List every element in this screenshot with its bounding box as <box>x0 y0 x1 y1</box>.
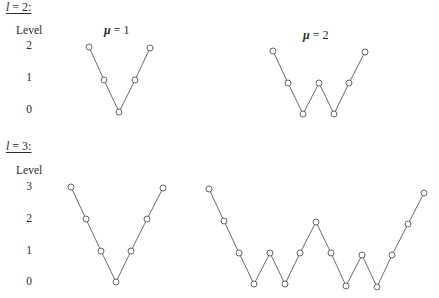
node-circle-icon <box>160 185 166 191</box>
node-circle-icon <box>362 49 368 55</box>
lattice-path <box>86 44 153 115</box>
node-circle-icon <box>83 216 89 222</box>
paths-layer <box>68 44 427 290</box>
path-edge <box>89 47 150 112</box>
node-circle-icon <box>101 77 107 83</box>
node-circle-icon <box>251 281 257 287</box>
node-circle-icon <box>346 80 352 86</box>
node-circle-icon <box>147 45 153 51</box>
node-circle-icon <box>98 248 104 254</box>
lattice-path <box>206 186 427 290</box>
node-circle-icon <box>405 221 411 227</box>
node-circle-icon <box>359 252 365 258</box>
node-circle-icon <box>316 80 322 86</box>
node-circle-icon <box>113 279 119 285</box>
node-circle-icon <box>331 111 337 117</box>
node-circle-icon <box>270 48 276 54</box>
lattice-path <box>270 48 368 117</box>
path-diagram <box>0 0 439 298</box>
node-circle-icon <box>421 190 427 196</box>
node-circle-icon <box>328 250 334 256</box>
node-circle-icon <box>282 281 288 287</box>
node-circle-icon <box>285 80 291 86</box>
node-circle-icon <box>297 250 303 256</box>
path-edge <box>71 187 163 282</box>
node-circle-icon <box>221 218 227 224</box>
node-circle-icon <box>68 184 74 190</box>
node-circle-icon <box>236 250 242 256</box>
node-circle-icon <box>116 109 122 115</box>
node-circle-icon <box>132 77 138 83</box>
node-circle-icon <box>300 111 306 117</box>
path-edge <box>209 189 424 287</box>
node-circle-icon <box>313 219 319 225</box>
node-circle-icon <box>389 252 395 258</box>
node-circle-icon <box>128 248 134 254</box>
node-circle-icon <box>267 250 273 256</box>
node-circle-icon <box>206 186 212 192</box>
lattice-path <box>68 184 166 285</box>
node-circle-icon <box>343 283 349 289</box>
node-circle-icon <box>86 44 92 50</box>
node-circle-icon <box>144 216 150 222</box>
node-circle-icon <box>374 284 380 290</box>
